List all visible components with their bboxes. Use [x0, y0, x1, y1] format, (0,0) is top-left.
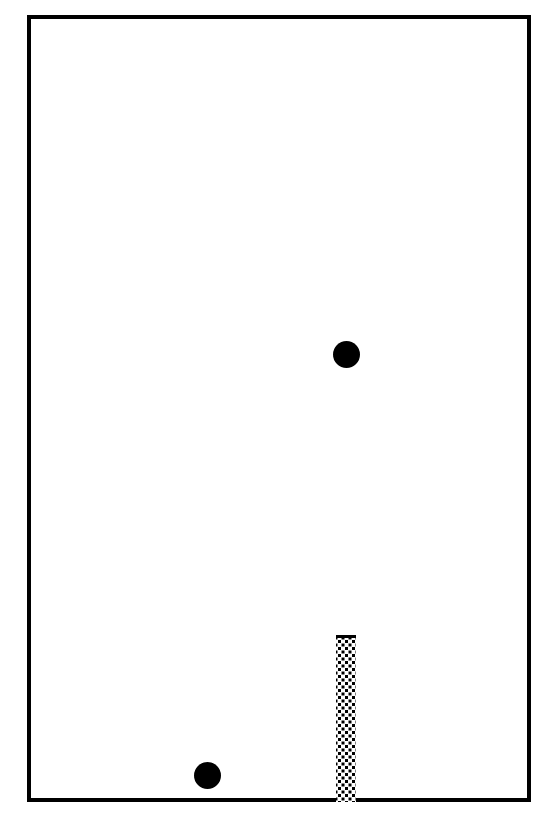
- flowmeter-illustration: N2O L/M O2 L/M 0987654320 0987654320: [0, 0, 557, 818]
- float-ball-o2: [333, 341, 360, 368]
- float-ball-n2o: [194, 762, 221, 789]
- indicator-overlay: [0, 0, 557, 818]
- flow-indicator-column-o2: [336, 635, 356, 802]
